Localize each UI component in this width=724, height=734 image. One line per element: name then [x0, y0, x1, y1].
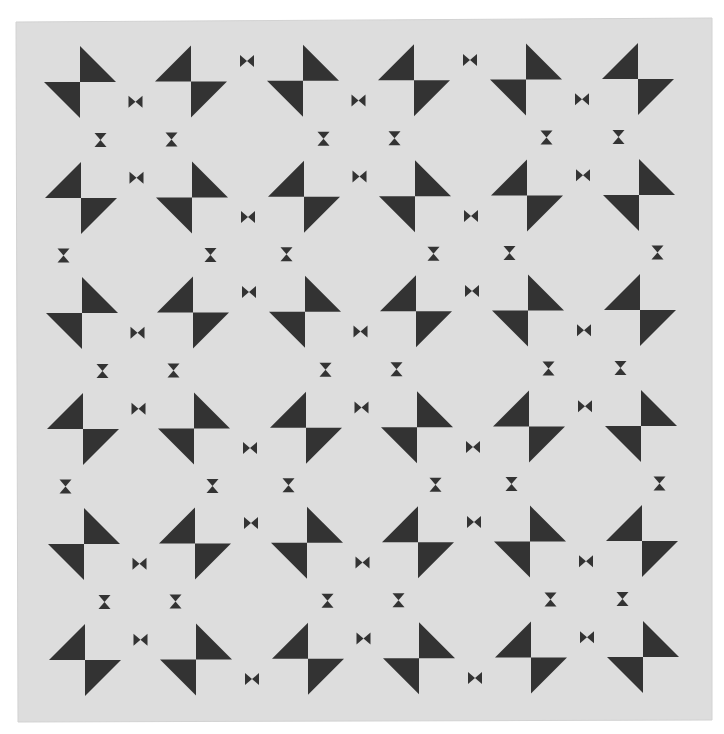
quilt-fabric — [16, 18, 712, 722]
quilt-photo — [0, 0, 724, 734]
